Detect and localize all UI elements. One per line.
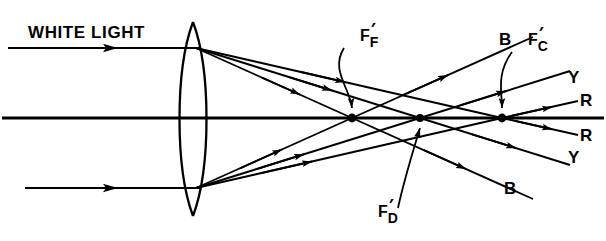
ray-label-red-upper: R — [580, 92, 592, 109]
focal-point-F-prime-D — [416, 114, 424, 122]
focal-point-F-prime-C — [498, 114, 507, 123]
ray-label-yellow-upper: Y — [568, 69, 579, 86]
ray-label-blue-lower: B — [504, 180, 516, 197]
ray-label-yellow-lower: Y — [568, 149, 579, 166]
arrow-upper-yellow-out — [472, 134, 516, 148]
ray-label-red-lower: R — [580, 127, 592, 144]
leader-F-prime-F — [339, 48, 352, 108]
arrow-upper-red-out — [515, 121, 552, 129]
focal-label-F-prime-C-sub: C — [538, 39, 548, 53]
focal-label-F-prime-D-sub: D — [388, 211, 398, 225]
chromatic-aberration-figure: WHITE LIGHT F′F F′C F′D B Y R R Y B — [0, 0, 606, 241]
leader-F-prime-C — [501, 52, 512, 108]
arrow-upper-blue-out — [424, 150, 466, 169]
focal-label-F-prime-C: F′C — [528, 32, 552, 48]
arrow-upper-red-in — [300, 72, 345, 82]
arrow-upper-blue-in — [262, 78, 300, 95]
white-light-label: WHITE LIGHT — [28, 24, 145, 41]
arrow-lower-red-in — [262, 162, 312, 173]
ray-lower-red — [196, 118, 502, 188]
focal-label-F-prime-D: F′D — [378, 204, 402, 220]
arrow-lower-red-out — [512, 107, 552, 116]
focal-label-F-prime-F-sub: F — [370, 35, 379, 49]
ray-lower-yellow — [196, 118, 420, 188]
focal-label-F-prime-F: F′F — [360, 28, 382, 44]
arrow-lower-blue-out — [404, 75, 448, 95]
focal-point-F-prime-F — [348, 114, 357, 123]
ray-label-blue-upper: B — [499, 31, 511, 48]
arrow-lower-blue-in — [240, 149, 282, 168]
arrow-upper-yellow-in — [290, 77, 332, 90]
arrow-lower-yellow-out — [460, 91, 506, 105]
